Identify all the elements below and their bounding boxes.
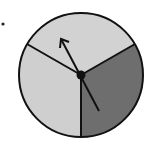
spinner-diagram [0,0,146,148]
spinner [19,12,144,137]
marker-dot [1,22,4,25]
spinner-hub [77,71,86,80]
